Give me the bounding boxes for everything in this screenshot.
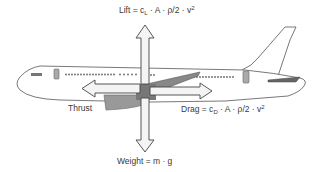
lift-suffix: · A · ρ/2 · v — [148, 5, 192, 15]
lift-sup: 2 — [191, 5, 194, 11]
drag-suffix: · A · ρ/2 · v — [218, 104, 262, 114]
drag-sup: 2 — [261, 104, 264, 110]
airplane-diagram — [0, 0, 320, 172]
drag-prefix: Drag = c — [181, 104, 213, 114]
lift-label: Lift = cL · A · ρ/2 · v2 — [119, 5, 195, 16]
drag-label: Drag = cD · A · ρ/2 · v2 — [181, 104, 265, 115]
front-door — [54, 69, 59, 79]
cockpit-window — [31, 73, 42, 76]
thrust-label: Thrust — [68, 104, 92, 113]
weight-label: Weight = m · g — [117, 157, 172, 166]
lift-prefix: Lift = c — [119, 5, 144, 15]
rear-door — [243, 71, 249, 83]
